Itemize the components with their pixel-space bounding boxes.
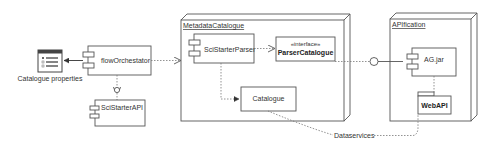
ag-jar-label: AG.jar (424, 56, 445, 64)
flow-orchestrator-label: flowOrchestator (101, 57, 151, 64)
component-scistarter-parser[interactable]: SciStarterParser (189, 34, 256, 63)
interface-parser-catalogue[interactable]: «interface» ParserCatalogue (276, 37, 335, 61)
component-scistarter-api[interactable]: SciStarterAPI (90, 100, 145, 126)
scistarter-api-label: SciStarterAPI (101, 104, 143, 111)
catalogue-properties-artifact[interactable]: Catalogue properties (18, 50, 83, 83)
webapi-label: WebAPI (421, 102, 447, 109)
apification-label: APIfication (392, 21, 426, 28)
component-catalogue[interactable]: Catalogue (241, 87, 296, 111)
component-flow-orchestrator[interactable]: flowOrchestator (83, 46, 151, 75)
provided-interface-icon (370, 58, 378, 66)
catalogue-properties-label: Catalogue properties (18, 75, 83, 83)
interface-stereotype: «interface» (291, 41, 321, 47)
interface-label: ParserCatalogue (278, 49, 334, 57)
interface-socket-icon (114, 87, 121, 93)
catalogue-label: Catalogue (253, 95, 285, 103)
uml-diagram: Catalogue properties flowOrchestator Sci… (0, 0, 495, 149)
dataservices-label: Dataservices (334, 132, 375, 139)
list-window-icon (38, 50, 62, 72)
package-tab (418, 92, 434, 96)
component-ag-jar[interactable]: AG.jar (407, 48, 456, 76)
scistarter-parser-label: SciStarterParser (204, 46, 256, 53)
metadata-catalogue-label: MetadataCatalogue (183, 22, 244, 30)
